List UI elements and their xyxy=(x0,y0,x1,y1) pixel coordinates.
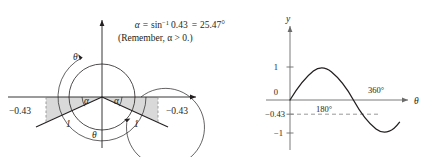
opposite-label-left: −0.43 xyxy=(9,106,31,116)
opposite-label-right: −0.43 xyxy=(166,106,188,116)
graph-x-axis-label: θ xyxy=(414,96,419,106)
ytick-label-minus043: −0.43 xyxy=(265,109,285,119)
graph-y-axis-arrow xyxy=(288,26,293,32)
annotation-line-2: (Remember, α > 0.) xyxy=(118,33,193,44)
annotation-value: 0.43 xyxy=(171,20,188,30)
xtick-label-360: 360° xyxy=(368,85,384,95)
hypotenuse-label-left: 1 xyxy=(66,119,71,129)
graph-y-axis-label: y xyxy=(285,14,291,24)
annotation-line-1: α=sin−10.43=25.47° xyxy=(118,19,237,31)
ytick-label-1: 1 xyxy=(274,62,278,72)
ytick-label-minus1: −1 xyxy=(274,128,283,138)
sine-graph: 1 0 −0.43 −1 180° 360° y θ xyxy=(265,14,419,150)
ytick-label-0: 0 xyxy=(274,87,278,97)
hypotenuse-label-right: 1 xyxy=(134,119,139,129)
annotation-equals-2: = xyxy=(192,20,197,30)
figure-canvas: θ θ α α 1 1 −0.43 −0.43 α=sin−10.43=25.4… xyxy=(0,0,432,157)
annotation-equals-1: = xyxy=(143,20,148,30)
xtick-label-180: 180° xyxy=(316,104,332,114)
theta-label-upper: θ xyxy=(73,52,78,62)
trigonometry-figure: θ θ α α 1 1 −0.43 −0.43 α=sin−10.43=25.4… xyxy=(0,0,432,157)
theta-label-lower: θ xyxy=(92,130,97,140)
x-axis-arrow xyxy=(190,95,196,100)
graph-x-axis-arrow xyxy=(402,98,408,103)
annotation-sin: sin xyxy=(151,20,162,30)
annotation-alpha: α xyxy=(135,20,141,30)
annotation-exponent: −1 xyxy=(162,19,169,26)
y-axis-arrow xyxy=(100,20,105,26)
annotation-result: 25.47° xyxy=(200,20,225,30)
annotation-block: α=sin−10.43=25.47° (Remember, α > 0.) xyxy=(118,19,237,45)
